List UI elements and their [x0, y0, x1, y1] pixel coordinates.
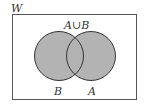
union-label: A∪B [63, 19, 89, 32]
venn-diagram: W A∪B B A [0, 0, 144, 105]
set-b-label: B [53, 85, 62, 98]
universe-label: W [11, 2, 24, 15]
set-a-label: A [87, 85, 96, 98]
